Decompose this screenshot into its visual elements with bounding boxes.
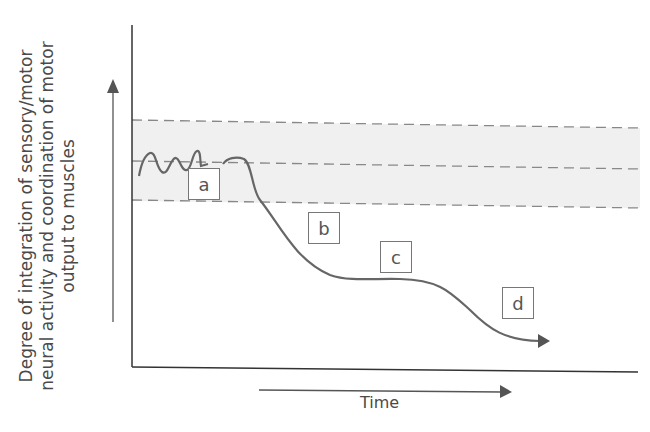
x-direction-arrow [259, 390, 502, 392]
stage-label-b: b [308, 212, 340, 244]
x-axis-line [132, 367, 638, 372]
x-arrow-head-icon [500, 385, 512, 398]
curve-arrow-head-icon [538, 334, 550, 348]
stage-label-c: c [380, 241, 412, 273]
y-arrow-head-icon [107, 79, 119, 93]
y-axis-label: Degree of integration of sensory/motor n… [16, 36, 79, 396]
stage-label-a: a [188, 168, 220, 200]
stage-label-d: d [502, 287, 534, 319]
x-axis-label: Time [360, 393, 399, 412]
